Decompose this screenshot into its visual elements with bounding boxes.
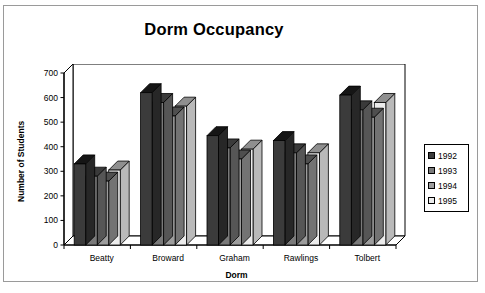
x-axis-title: Dorm	[64, 270, 409, 280]
y-axis-tick-label: 400	[44, 142, 58, 152]
x-axis-category-label: Broward	[152, 253, 184, 263]
x-axis-category-label: Beatty	[90, 253, 115, 263]
y-axis-tick-label: 700	[44, 68, 58, 78]
chart-canvas: 0100200300400500600700BeattyBrowardGraha…	[34, 64, 414, 264]
chart-title: Dorm Occupancy	[4, 20, 424, 39]
bar-broward-1992	[141, 84, 162, 245]
bar-rawlings-1992	[273, 132, 294, 245]
bar-graham-1992	[207, 127, 228, 245]
page-frame: Dorm Occupancy Number of Students 010020…	[3, 5, 478, 282]
legend-item: 1993	[428, 163, 465, 178]
legend-label-1993: 1993	[438, 166, 457, 176]
chart-legend: 1992 1993 1994 1995	[424, 144, 469, 212]
legend-swatch-1995	[428, 197, 435, 204]
chart-screenshot: Dorm Occupancy Number of Students 010020…	[0, 0, 485, 293]
y-axis-tick-label: 0	[53, 240, 58, 250]
legend-item: 1992	[428, 148, 465, 163]
bar-tolbert-1992	[340, 86, 361, 245]
y-axis-tick-label: 100	[44, 215, 58, 225]
x-axis-category-label: Tolbert	[355, 253, 381, 263]
x-axis-category-label: Graham	[219, 253, 250, 263]
legend-item: 1994	[428, 178, 465, 193]
bar-beatty-1992	[74, 155, 95, 245]
y-axis-title: Number of Students	[13, 101, 29, 221]
legend-swatch-1992	[428, 152, 435, 159]
x-axis-category-label: Rawlings	[284, 253, 319, 263]
plot-area: 0100200300400500600700BeattyBrowardGraha…	[34, 64, 414, 264]
legend-label-1992: 1992	[438, 151, 457, 161]
y-axis-tick-label: 600	[44, 93, 58, 103]
legend-swatch-1993	[428, 167, 435, 174]
y-axis-tick-label: 200	[44, 191, 58, 201]
legend-label-1995: 1995	[438, 196, 457, 206]
legend-swatch-1994	[428, 182, 435, 189]
y-axis-tick-label: 300	[44, 166, 58, 176]
legend-item: 1995	[428, 193, 465, 208]
legend-label-1994: 1994	[438, 181, 457, 191]
y-axis-tick-label: 500	[44, 117, 58, 127]
